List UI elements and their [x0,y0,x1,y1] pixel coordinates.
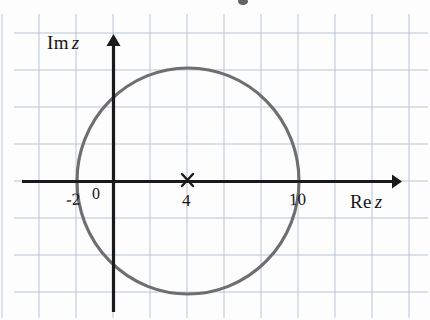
real-axis-label-prefix: Re [350,191,372,212]
real-axis-arrowhead [392,175,402,189]
tick-label-four: 4 [182,192,191,209]
tick-label-minus-two: -2 [66,191,81,209]
real-axis-label-variable: z [372,191,383,212]
imaginary-axis-label: Imz [47,33,79,52]
imaginary-axis-arrowhead [107,34,121,46]
real-axis-label: Rez [350,192,382,211]
complex-plane-figure: Imz Rez -2 0 4 10 [0,0,430,320]
imaginary-axis-label-variable: z [69,32,80,53]
scan-artifact-mark [238,0,248,5]
tick-label-origin: 0 [92,186,100,202]
imaginary-axis-label-prefix: Im [47,32,69,53]
tick-label-ten: 10 [289,191,307,209]
